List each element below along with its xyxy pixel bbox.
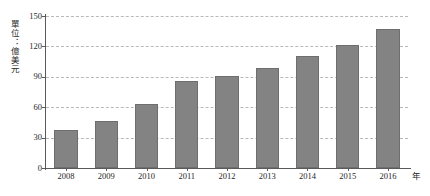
x-axis-tick-mark <box>227 168 228 171</box>
x-axis-tick-label: 2015 <box>328 171 368 181</box>
bar <box>376 29 399 168</box>
x-axis-tick-mark <box>388 168 389 171</box>
x-axis-tick-mark <box>267 168 268 171</box>
y-axis-tick-mark <box>42 77 45 78</box>
x-axis-tick-mark <box>187 168 188 171</box>
bars-layer <box>46 16 408 168</box>
bar <box>175 81 198 168</box>
x-axis-tick-mark <box>348 168 349 171</box>
y-axis-tick-label: 120 <box>16 42 42 51</box>
bar <box>256 68 279 168</box>
x-axis-tick-label: 2008 <box>46 171 86 181</box>
y-axis-tick-mark <box>42 46 45 47</box>
bar <box>296 56 319 168</box>
x-axis-tick-labels: 200820092010201120122013201420152016 <box>46 171 408 185</box>
bar <box>215 76 238 168</box>
bar-chart: 單位：億美元 0306090120150 2008200920102011201… <box>0 0 430 196</box>
bar <box>95 121 118 168</box>
x-axis-tick-label: 2012 <box>207 171 247 181</box>
x-axis-unit-label: 年 <box>412 171 421 181</box>
y-axis-tick-label: 90 <box>16 72 42 81</box>
x-axis-tick-label: 2013 <box>247 171 287 181</box>
y-axis-tick-label: 0 <box>16 164 42 173</box>
y-axis-tick-label: 30 <box>16 133 42 142</box>
y-axis-tick-mark <box>42 16 45 17</box>
y-axis-tick-mark <box>42 138 45 139</box>
x-axis-tick-mark <box>307 168 308 171</box>
x-axis-tick-label: 2014 <box>287 171 327 181</box>
x-axis-tick-label: 2016 <box>368 171 408 181</box>
x-axis-tick-label: 2010 <box>126 171 166 181</box>
bar <box>54 130 77 169</box>
y-axis-tick-mark <box>42 107 45 108</box>
bar <box>135 104 158 168</box>
bar <box>336 45 359 168</box>
plot-area <box>46 16 408 168</box>
x-axis-tick-mark <box>106 168 107 171</box>
y-axis-tick-label: 60 <box>16 103 42 112</box>
x-axis-tick-label: 2011 <box>167 171 207 181</box>
x-axis-line <box>45 168 411 169</box>
y-axis-tick-label: 150 <box>16 12 42 21</box>
x-axis-tick-label: 2009 <box>86 171 126 181</box>
y-axis-tick-labels: 0306090120150 <box>14 16 42 168</box>
x-axis-tick-mark <box>66 168 67 171</box>
y-axis-tick-mark <box>42 168 45 169</box>
x-axis-tick-mark <box>147 168 148 171</box>
